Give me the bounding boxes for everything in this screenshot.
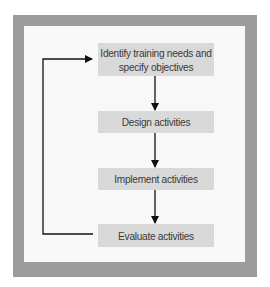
step-design-box: Design activities: [98, 111, 214, 133]
step-implement-box: Implement activities: [98, 168, 214, 190]
step-design-label: Design activities: [122, 115, 190, 129]
step-identify-label-line2: specify objectives: [100, 60, 211, 74]
step-evaluate-label: Evaluate activities: [118, 229, 194, 243]
feedback-loop-arrow: [43, 59, 93, 234]
step-identify-label-line1: Identify training needs and: [100, 46, 211, 60]
step-identify-box: Identify training needs and specify obje…: [98, 43, 214, 76]
step-evaluate-box: Evaluate activities: [98, 224, 214, 247]
step-implement-label: Implement activities: [114, 172, 197, 186]
